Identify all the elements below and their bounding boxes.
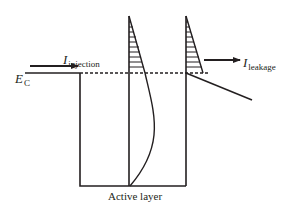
conduction-band-subscript: C <box>24 78 30 88</box>
carrier-density-curve <box>130 73 154 186</box>
leakage-subscript: leakage <box>248 62 275 72</box>
hatched-distribution-right <box>186 16 203 73</box>
active-layer-caption: Active layer <box>108 191 162 202</box>
leakage-label: Ileakage <box>243 54 276 70</box>
leakage-symbol: I <box>243 55 247 70</box>
injection-symbol: I <box>63 52 67 67</box>
conduction-band-symbol: E <box>15 71 23 86</box>
injection-subscript: injection <box>68 59 100 69</box>
injection-label: Iinjection <box>63 51 100 67</box>
band-slope-line <box>186 73 252 100</box>
quantum-well <box>80 73 186 186</box>
band-diagram-graphic <box>0 0 285 212</box>
conduction-band-label: EC <box>15 70 30 86</box>
hatched-distribution-left <box>129 16 145 73</box>
band-diagram: Iinjection EC Ileakage Active layer <box>0 0 285 212</box>
